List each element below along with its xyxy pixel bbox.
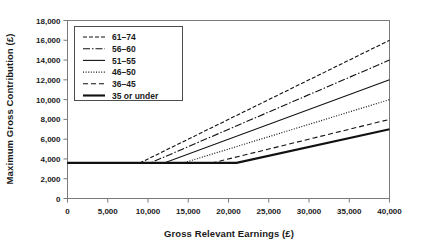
y-tick-label: 16,000: [36, 36, 61, 45]
legend-label-2: 51–55: [112, 56, 136, 66]
y-tick-label: 0: [56, 195, 61, 204]
y-tick-label: 6,000: [40, 135, 61, 144]
legend-label-1: 56–60: [112, 44, 136, 54]
y-tick-label: 8,000: [40, 115, 61, 124]
x-tick-label: 5,000: [98, 207, 119, 216]
x-tick-label: 25,000: [257, 207, 282, 216]
x-tick-label: 40,000: [377, 207, 402, 216]
legend-label-3: 46–50: [112, 67, 136, 77]
y-tick-label: 4,000: [40, 155, 61, 164]
legend-label-4: 36–45: [112, 79, 136, 89]
x-tick-label: 30,000: [297, 207, 322, 216]
x-axis-title-group: Gross Relevant Earnings (£): [164, 228, 294, 239]
chart-legend: 61–7456–6051–5546–5036–4535 or under: [75, 27, 183, 101]
x-tick-label: 35,000: [337, 207, 362, 216]
legend-label-5: 35 or under: [112, 91, 159, 101]
x-axis-ticks: 05,00010,00015,00020,00025,00030,00035,0…: [65, 199, 402, 216]
y-tick-label: 18,000: [36, 17, 61, 26]
line-chart: Maximum Gross Contribution (£) Gross Rel…: [0, 0, 422, 249]
series-line-35-or-under: [68, 129, 390, 163]
chart-container: Maximum Gross Contribution (£) Gross Rel…: [0, 0, 422, 249]
y-tick-label: 10,000: [36, 96, 61, 105]
legend-label-0: 61–74: [112, 32, 136, 42]
x-tick-label: 0: [65, 207, 70, 216]
y-tick-label: 14,000: [36, 56, 61, 65]
x-tick-label: 15,000: [176, 207, 201, 216]
y-tick-label: 2,000: [40, 175, 61, 184]
x-axis-title: Gross Relevant Earnings (£): [164, 228, 294, 239]
y-tick-label: 12,000: [36, 76, 61, 85]
x-tick-label: 20,000: [216, 207, 241, 216]
y-axis-ticks: 02,0004,0006,0008,00010,00012,00014,0001…: [36, 17, 67, 204]
series-line-36-45: [68, 119, 390, 163]
y-axis-title: Maximum Gross Contribution (£): [4, 34, 15, 185]
series-line-46-50: [68, 100, 390, 163]
x-tick-label: 10,000: [136, 207, 161, 216]
y-axis-title-group: Maximum Gross Contribution (£): [4, 34, 15, 185]
